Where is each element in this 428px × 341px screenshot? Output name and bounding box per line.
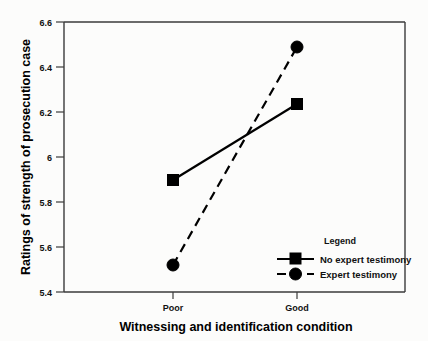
legend-label-expert-testimony: Expert testimony xyxy=(320,269,398,280)
chart-page: 6.6 6.4 6.2 6 5.8 5.6 5.4 Poor Good Rati… xyxy=(0,0,428,341)
series-no-expert-testimony xyxy=(168,99,303,186)
series-line-no-expert-testimony xyxy=(173,104,297,180)
data-point-expert-good xyxy=(291,41,303,53)
data-point-expert-poor xyxy=(167,259,179,271)
y-tick-label-5.8: 5.8 xyxy=(39,198,52,208)
legend-marker-circle-icon xyxy=(290,268,302,280)
x-tick-label-good: Good xyxy=(285,303,309,313)
y-tick-label-6.2: 6.2 xyxy=(39,108,52,118)
line-chart: 6.6 6.4 6.2 6 5.8 5.6 5.4 Poor Good Rati… xyxy=(0,0,428,341)
y-tick-label-5.4: 5.4 xyxy=(39,288,52,298)
legend-label-no-expert-testimony: No expert testimony xyxy=(320,254,412,265)
data-point-no-expert-good xyxy=(292,99,303,110)
x-tick-label-poor: Poor xyxy=(163,303,184,313)
legend-marker-square-icon xyxy=(290,253,301,264)
chart-legend: Legend No expert testimony Expert testim… xyxy=(277,236,412,280)
legend-entry-no-expert-testimony: No expert testimony xyxy=(277,253,412,265)
y-tick-label-6: 6 xyxy=(47,153,52,163)
data-point-no-expert-poor xyxy=(168,175,179,186)
y-axis-ticks: 6.6 6.4 6.2 6 5.8 5.6 5.4 xyxy=(39,18,64,298)
legend-title: Legend xyxy=(324,236,356,246)
y-tick-label-6.4: 6.4 xyxy=(39,63,52,73)
y-tick-label-6.6: 6.6 xyxy=(39,18,52,28)
x-axis-title: Witnessing and identification condition xyxy=(119,320,352,334)
x-axis-ticks: Poor Good xyxy=(163,292,309,313)
y-tick-label-5.6: 5.6 xyxy=(39,243,52,253)
legend-entry-expert-testimony: Expert testimony xyxy=(277,268,398,280)
series-line-expert-testimony xyxy=(173,47,297,265)
y-axis-title: Ratings of strength of prosecution case xyxy=(19,39,33,275)
series-expert-testimony xyxy=(167,41,303,271)
